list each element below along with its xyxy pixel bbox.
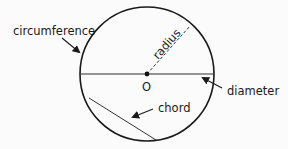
- chord-line: [89, 98, 156, 140]
- radius-label: radius: [150, 26, 184, 62]
- center-point: [145, 72, 150, 77]
- chord-label: chord: [158, 101, 190, 115]
- diameter-label: diameter: [227, 84, 279, 98]
- circumference-label: circumference: [13, 24, 95, 38]
- chord-arrow: [133, 109, 153, 117]
- circle-diagram: circumference radius O diameter chord: [0, 0, 288, 149]
- circumference-arrow: [62, 38, 79, 52]
- center-label: O: [142, 80, 151, 94]
